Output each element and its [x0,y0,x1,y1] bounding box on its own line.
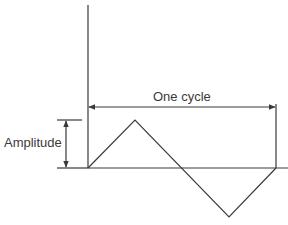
one-cycle-label: One cycle [153,90,211,103]
amplitude-label: Amplitude [4,136,62,149]
triangle-wave-diagram [0,0,288,225]
